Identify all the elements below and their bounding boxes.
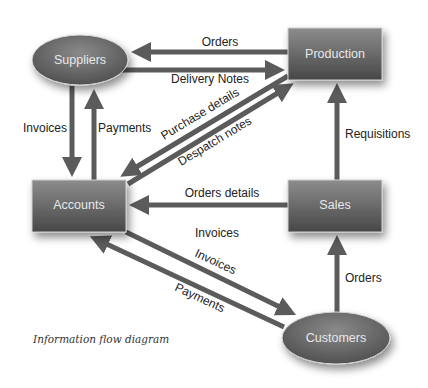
node-label-production: Production (305, 47, 365, 61)
label-orders-customers: Orders (345, 271, 382, 285)
node-label-sales: Sales (319, 198, 350, 212)
label-invoices-customers: Invoices (193, 246, 239, 277)
arrow-payments-customers-to-accounts (98, 240, 284, 327)
information-flow-diagram: Suppliers Production Accounts Sales Cust… (0, 0, 428, 388)
label-orders-top: Orders (202, 35, 239, 49)
node-label-customers: Customers (306, 331, 366, 345)
label-requisitions: Requisitions (345, 127, 410, 141)
label-invoices-suppliers: Invoices (23, 121, 67, 135)
node-label-suppliers: Suppliers (54, 53, 106, 67)
label-delivery-notes: Delivery Notes (171, 72, 249, 86)
arrow-purchase-details (128, 76, 288, 172)
node-label-accounts: Accounts (53, 198, 104, 212)
diagram-caption: Information flow diagram (32, 333, 169, 345)
label-invoices-middle: Invoices (195, 226, 239, 240)
label-orders-details: Orders details (185, 186, 260, 200)
label-payments-suppliers: Payments (98, 121, 151, 135)
